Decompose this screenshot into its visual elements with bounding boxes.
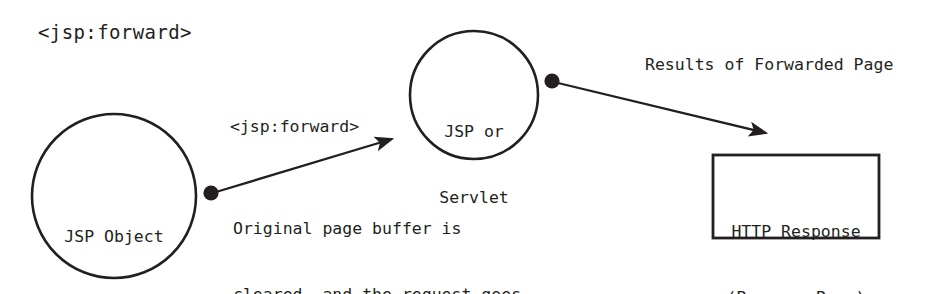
jsp-servlet-line-1: JSP or — [439, 121, 509, 143]
forward-note-line-2: cleared, and the request goes — [233, 284, 521, 294]
jsp-object-node-label: JSP Object (Servlet) — [64, 181, 163, 294]
jsp-object-line-1: JSP Object — [64, 226, 163, 248]
diagram-title: <jsp:forward> — [38, 20, 192, 46]
forward-edge-label: <jsp:forward> — [230, 116, 359, 138]
http-response-line-1: HTTP Response — [726, 221, 865, 243]
response-edge-line — [558, 83, 766, 133]
http-response-node-label: HTTP Response (Browser Page) — [726, 176, 865, 294]
jsp-forward-diagram: <jsp:forward> JSP Object (Servlet) JSP o… — [0, 0, 927, 294]
response-edge-source-dot — [544, 73, 559, 88]
response-edge-label: Results of Forwarded Page — [645, 54, 893, 76]
http-response-line-2: (Browser Page) — [726, 287, 865, 294]
forward-note-line-1: Original page buffer is — [233, 218, 521, 240]
forward-edge-note: Original page buffer is cleared, and the… — [233, 173, 521, 294]
